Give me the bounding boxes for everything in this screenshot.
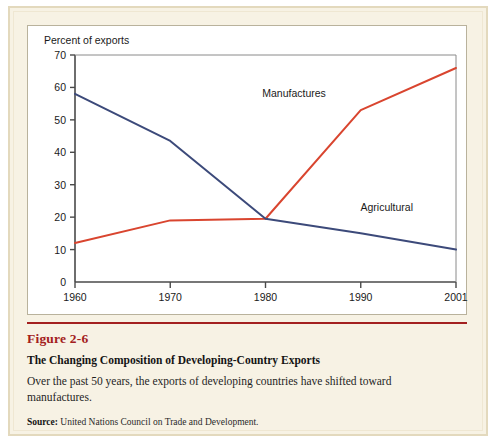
caption-divider: [27, 322, 467, 324]
y-axis-tick-label: 10: [54, 244, 66, 256]
figure-number: Figure 2-6: [27, 331, 467, 347]
y-axis-tick-label: 60: [54, 81, 66, 93]
series-label-agricultural: Agricultural: [360, 201, 413, 213]
x-axis-tick-label: 1990: [349, 291, 373, 303]
x-axis-tick-label: 2001: [444, 291, 468, 303]
source-label: Source:: [27, 417, 58, 427]
figure-inner-border: Percent of exports 010203040506070196019…: [13, 11, 483, 431]
y-axis-tick-label: 70: [54, 49, 66, 61]
y-axis-tick-label: 40: [54, 146, 66, 158]
series-line-agricultural: [75, 94, 456, 250]
y-axis-tick-label: 0: [60, 276, 66, 288]
chart-panel: Percent of exports 010203040506070196019…: [27, 25, 467, 315]
figure-source: Source: United Nations Council on Trade …: [27, 417, 467, 427]
caption-block: Figure 2-6 The Changing Composition of D…: [27, 322, 467, 427]
y-axis-tick-label: 30: [54, 179, 66, 191]
line-chart: 01020304050607019601970198019902001Manuf…: [28, 26, 468, 316]
x-axis-tick-label: 1970: [159, 291, 183, 303]
figure-description: Over the past 50 years, the exports of d…: [27, 373, 427, 406]
source-text: United Nations Council on Trade and Deve…: [60, 417, 258, 427]
series-label-manufactures: Manufactures: [262, 87, 326, 99]
x-axis-tick-label: 1980: [254, 291, 278, 303]
figure-frame: Percent of exports 010203040506070196019…: [8, 6, 488, 436]
figure-title: The Changing Composition of Developing-C…: [27, 354, 467, 366]
x-axis-tick-label: 1960: [63, 291, 87, 303]
y-axis-tick-label: 50: [54, 114, 66, 126]
y-axis-tick-label: 20: [54, 211, 66, 223]
